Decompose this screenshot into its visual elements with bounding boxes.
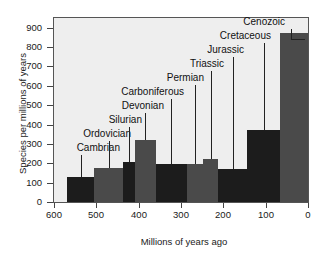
annotation-label-cenozoic: Cenozoic [243,16,285,27]
bar-cambrian [67,177,95,202]
annotation-label-devonian: Devonian [122,100,164,111]
x-tick-label: 300 [161,209,201,220]
y-tick-label: 300 [2,138,42,149]
leader-line-cenozoic-vertical [291,29,292,39]
y-tick-label: 500 [2,99,42,110]
annotation-label-carboniferous: Carboniferous [121,86,184,97]
bar-devonian [135,140,155,202]
bar-triassic [203,159,218,202]
species-diversity-chart: Species per millions of years Millions o… [0,0,330,258]
y-tick-label: 600 [2,80,42,91]
x-tick-label: 600 [34,209,74,220]
y-tick-label: 900 [2,22,42,33]
x-tick [266,203,267,208]
leader-line-carboniferous [171,99,172,164]
annotation-label-ordovician: Ordovician [83,128,131,139]
bar-permian [187,164,203,202]
x-tick [308,203,309,208]
x-tick-label: 400 [119,209,159,220]
bar-carboniferous [156,164,187,202]
y-tick-label: 800 [2,41,42,52]
y-tick-label: 700 [2,60,42,71]
leader-line-cambrian [81,155,82,177]
x-tick [181,203,182,208]
y-axis-title: Species per millions of years [17,34,28,194]
bar-jurassic [218,169,247,202]
x-tick-label: 200 [203,209,243,220]
x-tick [54,203,55,208]
leader-line-permian [195,85,196,164]
x-tick-label: 100 [246,209,286,220]
annotation-label-cretaceous: Cretaceous [220,30,271,41]
leader-line-ordovician [109,141,110,168]
y-tick-label: 100 [2,177,42,188]
x-tick [139,203,140,208]
annotation-label-silurian: Silurian [109,114,142,125]
bar-cretaceous-inner [247,130,280,202]
leader-line-cenozoic-horizontal [291,39,305,40]
y-tick-label: 400 [2,119,42,130]
y-tick-label: 0 [2,196,42,207]
annotation-label-cambrian: Cambrian [77,142,120,153]
leader-line-silurian [129,127,130,162]
plot-area [53,17,309,203]
bar-ordovician [94,168,122,202]
leader-line-devonian [145,113,146,140]
x-tick-label: 500 [76,209,116,220]
annotation-label-triassic: Triassic [190,58,224,69]
x-axis-title: Millions of years ago [55,236,313,247]
x-tick [223,203,224,208]
leader-line-cretaceous [264,43,265,130]
y-tick-label: 200 [2,157,42,168]
bar-cenozoic [280,33,308,202]
annotation-label-permian: Permian [167,72,204,83]
leader-line-triassic [211,71,212,159]
leader-line-jurassic [233,57,234,169]
bar-series [54,18,308,202]
annotation-label-jurassic: Jurassic [207,44,244,55]
x-tick [96,203,97,208]
x-tick-label: 0 [288,209,328,220]
bar-silurian [123,162,136,202]
